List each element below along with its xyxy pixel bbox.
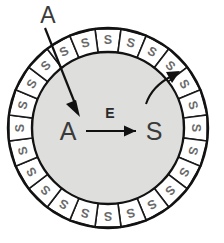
external-species-label: A [40,2,56,28]
diagram-root: SSSSSSSSSSSSSSSSSSSSSSSS S --> A E S A [0,0,224,243]
cell-transport-figure: SSSSSSSSSSSSSSSSSSSSSSSS S --> A E S A [0,0,224,243]
membrane-segment-label: S [104,33,112,47]
interior-product-label: S [146,117,163,145]
enzyme-label: E [105,105,114,121]
membrane-segment-label: S [13,124,27,132]
interior-substrate-label: A [60,117,77,145]
membrane-segment-label: S [104,209,112,223]
membrane-segment-label: S [189,124,203,132]
